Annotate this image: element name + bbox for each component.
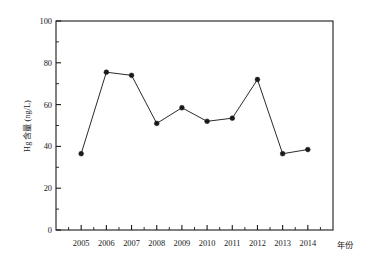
line-chart: 020406080100 200520062007200820092010201… [0,0,369,274]
data-point-marker [230,116,235,121]
x-tick-label: 2013 [274,239,291,248]
y-tick-label: 100 [39,17,52,26]
x-tick-label: 2010 [199,239,216,248]
chart-figure: 020406080100 200520062007200820092010201… [0,0,369,274]
y-tick-label: 60 [44,101,52,110]
x-tick-label: 2007 [123,239,140,248]
y-tick-label: 0 [48,226,52,235]
data-point-marker [305,147,310,152]
data-point-marker [180,105,185,110]
data-point-marker [280,151,285,156]
y-tick-label: 20 [44,184,52,193]
x-tick-label: 2005 [73,239,90,248]
x-axis-title: 年份 [337,240,354,250]
x-tick-label: 2011 [224,239,240,248]
data-point-marker [255,77,260,82]
chart-background [0,0,369,274]
y-tick-label: 40 [44,142,52,151]
y-axis-title: Hg 含量 (ng/L) [22,100,32,152]
data-point-marker [129,73,134,78]
data-point-marker [104,70,109,75]
x-tick-label: 2008 [148,239,165,248]
x-tick-label: 2006 [98,239,115,248]
data-point-marker [205,119,210,124]
y-tick-label: 80 [44,59,52,68]
data-point-marker [154,121,159,126]
x-tick-label: 2014 [299,239,317,248]
data-point-marker [79,151,84,156]
x-tick-label: 2012 [249,239,266,248]
x-tick-label: 2009 [174,239,191,248]
